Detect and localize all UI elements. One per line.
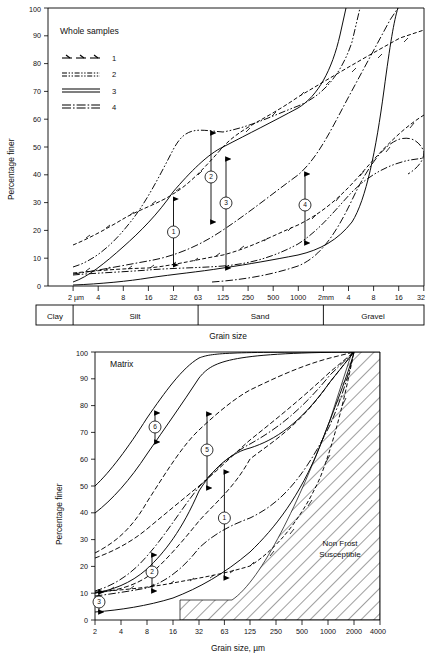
bottom-xtick-16: 16 <box>169 627 177 636</box>
top-x-tick-labels: 2 µm 4 8 16 32 63 125 250 500 1000 2mm 4… <box>68 293 425 302</box>
top-x-axis-title: Grain size <box>209 331 247 341</box>
legend-label-1: 1 <box>112 54 116 63</box>
top-callout-1: 1 <box>168 199 180 265</box>
bottom-xtick-63: 63 <box>220 627 228 636</box>
top-xtick-4mm: 4 <box>347 293 351 302</box>
bottom-xtick-250: 250 <box>270 627 282 636</box>
top-callout-4: 4 <box>299 174 311 243</box>
curve-2-lower <box>73 158 424 275</box>
legend-entry-2: 2 <box>62 70 116 79</box>
top-callout-3-num: 3 <box>224 199 228 206</box>
top-xtick-250: 250 <box>242 293 254 302</box>
bottom-ytick-40: 40 <box>80 508 88 517</box>
legend-label-3: 3 <box>112 87 116 96</box>
bottom-callout-2: 2 <box>146 555 158 591</box>
top-ytick-10: 10 <box>33 254 41 263</box>
bottom-ytick-80: 80 <box>80 401 88 410</box>
top-ytick-0: 0 <box>37 282 41 291</box>
bottom-ytick-60: 60 <box>80 455 88 464</box>
bottom-ytick-70: 70 <box>80 428 88 437</box>
class-label-sand: Sand <box>251 312 270 321</box>
class-label-silt: Silt <box>129 312 141 321</box>
bottom-callout-1-num: 1 <box>223 514 227 521</box>
nfs-line-1: Non Frost <box>322 539 358 548</box>
bottom-callouts: 6 5 1 2 3 <box>93 413 230 612</box>
top-callout-2-num: 2 <box>209 173 213 180</box>
bottom-callout-6-num: 6 <box>153 423 157 430</box>
top-callout-1-num: 1 <box>172 228 176 235</box>
top-x-ticks <box>73 286 424 291</box>
top-xtick-8mm: 8 <box>372 293 376 302</box>
bottom-callout-3-num: 3 <box>97 598 101 605</box>
legend-label-2: 2 <box>112 70 116 79</box>
top-xtick-1000: 1000 <box>290 293 306 302</box>
top-legend: Whole samples 1 2 <box>60 26 119 112</box>
top-xtick-125: 125 <box>217 293 229 302</box>
top-callout-2: 2 <box>205 133 217 222</box>
top-xtick-63: 63 <box>194 293 202 302</box>
legend-title: Whole samples <box>60 26 119 36</box>
top-xtick-16: 16 <box>144 293 152 302</box>
top-y-axis-title: Percentage finer <box>6 138 16 200</box>
bottom-xtick-2: 2 <box>93 627 97 636</box>
nfs-line-2: Susceptible <box>319 550 361 559</box>
curve-1-upper <box>73 30 424 245</box>
top-xtick-32mm: 32 <box>417 293 425 302</box>
class-label-clay: Clay <box>47 312 63 321</box>
panel-matrix: Non Frost Susceptible 0 10 20 30 40 50 6… <box>54 349 386 654</box>
bottom-ytick-30: 30 <box>80 535 88 544</box>
bottom-callout-6: 6 <box>149 413 161 442</box>
curve-4-lower <box>212 138 424 282</box>
bottom-xtick-500: 500 <box>296 627 308 636</box>
bottom-ytick-20: 20 <box>80 562 88 571</box>
top-ytick-20: 20 <box>33 226 41 235</box>
top-ytick-40: 40 <box>33 170 41 179</box>
bottom-xtick-8: 8 <box>145 627 149 636</box>
bottom-ytick-0: 0 <box>84 616 88 625</box>
bottom-panel-label: Matrix <box>110 359 134 369</box>
top-y-tick-labels: 0 10 20 30 40 50 60 70 80 90 100 <box>29 5 41 291</box>
top-callouts: 1 2 3 4 <box>168 133 312 268</box>
curve-1-upper-barbs <box>86 38 408 238</box>
top-xtick-2um: 2 µm <box>68 293 84 302</box>
top-ytick-100: 100 <box>29 5 41 14</box>
bottom-callout-1: 1 <box>218 472 230 578</box>
legend-entry-1: 1 <box>62 54 116 63</box>
legend-entry-3: 3 <box>62 87 116 96</box>
figure-svg: 0 10 20 30 40 50 60 70 80 90 100 Percent… <box>0 0 441 658</box>
top-ytick-70: 70 <box>33 87 41 96</box>
bottom-y-tick-labels: 0 10 20 30 40 50 60 70 80 90 100 <box>76 349 88 625</box>
bottom-y-axis-title: Percentage finer <box>54 483 64 545</box>
top-ytick-30: 30 <box>33 198 41 207</box>
top-ytick-90: 90 <box>33 31 41 40</box>
class-label-gravel: Gravel <box>361 312 385 321</box>
bottom-ytick-90: 90 <box>80 374 88 383</box>
bottom-x-axis-title: Grain size, µm <box>211 643 265 653</box>
top-ytick-60: 60 <box>33 115 41 124</box>
top-callout-4-num: 4 <box>303 201 307 208</box>
top-xtick-500: 500 <box>267 293 279 302</box>
bottom-xtick-1000: 1000 <box>320 627 336 636</box>
top-xtick-4: 4 <box>96 293 100 302</box>
top-callout-3: 3 <box>220 159 232 268</box>
legend-entry-4: 4 <box>62 103 116 112</box>
top-xtick-2mm: 2mm <box>318 293 334 302</box>
bottom-xtick-125: 125 <box>244 627 256 636</box>
top-xtick-16mm: 16 <box>395 293 403 302</box>
bottom-xtick-4: 4 <box>119 627 123 636</box>
bottom-xtick-4000: 4000 <box>370 627 386 636</box>
top-ytick-50: 50 <box>33 143 41 152</box>
bottom-ytick-50: 50 <box>80 482 88 491</box>
curve-2-upper <box>73 8 360 267</box>
bottom-y-ticks <box>91 352 95 620</box>
bottom-xtick-32: 32 <box>195 627 203 636</box>
curve-1-lower <box>73 115 424 273</box>
top-y-ticks <box>44 8 48 286</box>
bottom-ytick-100: 100 <box>76 349 88 358</box>
bottom-ytick-10: 10 <box>80 589 88 598</box>
top-xtick-32: 32 <box>170 293 178 302</box>
bottom-callout-5: 5 <box>201 414 213 488</box>
bottom-x-tick-labels: 2 4 8 16 32 63 125 250 500 1000 2000 400… <box>93 627 386 636</box>
bottom-callout-5-num: 5 <box>205 446 209 453</box>
bottom-x-ticks <box>95 620 380 625</box>
